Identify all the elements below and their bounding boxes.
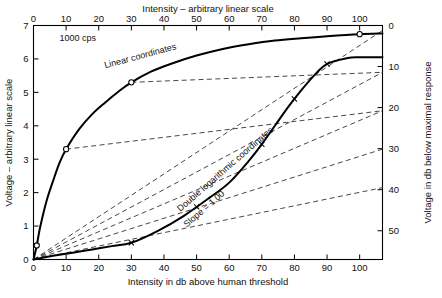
series-line-loglog <box>34 57 383 259</box>
top-axis-tick-label: 60 <box>224 13 235 24</box>
top-axis-tick-label: 30 <box>126 13 137 24</box>
right-axis-tick-label: 0 <box>389 20 394 31</box>
data-point-marker-circle <box>64 147 69 152</box>
top-axis-tick-label: 90 <box>322 13 333 24</box>
connector-1 <box>34 31 383 260</box>
bottom-axis-tick-label: 0 <box>31 262 36 273</box>
left-axis-tick-label: 5 <box>23 87 28 98</box>
top-axis-tick-label: 70 <box>257 13 268 24</box>
right-axis-tick-label: 50 <box>389 225 400 236</box>
left-axis-tick-label: 4 <box>23 120 28 131</box>
connector-upper-2 <box>131 72 382 82</box>
top-axis-title: Intensity – arbitrary linear scale <box>142 3 273 14</box>
figure-chart: 0102030405060708090100Intensity – arbitr… <box>0 0 442 298</box>
left-axis-tick-label: 2 <box>23 187 28 198</box>
left-axis-tick-label: 0 <box>23 254 28 265</box>
top-axis-tick-label: 80 <box>289 13 300 24</box>
top-axis-tick-label: 0 <box>31 13 36 24</box>
bottom-axis-tick-label: 20 <box>93 262 104 273</box>
bottom-axis-title: Intensity in db above human threshold <box>128 276 289 287</box>
data-point-marker-circle <box>129 80 134 85</box>
right-axis-tick-label: 30 <box>389 143 400 154</box>
bottom-axis-tick-label: 60 <box>224 262 235 273</box>
left-axis-tick-label: 1 <box>23 220 28 231</box>
right-axis-tick-label: 10 <box>389 61 400 72</box>
bottom-axis-tick-label: 30 <box>126 262 137 273</box>
chart-svg: 0102030405060708090100Intensity – arbitr… <box>0 0 442 298</box>
bottom-axis-tick-label: 70 <box>257 262 268 273</box>
bottom-axis-tick-label: 50 <box>191 262 202 273</box>
annotation-cps-note: 1000 cps <box>60 33 97 43</box>
top-axis-tick-label: 50 <box>191 13 202 24</box>
annotation-loglog-curve-label: Double logarithmic coordinates <box>175 125 275 214</box>
data-point-marker-circle <box>357 32 362 37</box>
left-axis-tick-label: 3 <box>23 154 28 165</box>
left-axis-tick-label: 6 <box>23 53 28 64</box>
bottom-axis-tick-label: 90 <box>322 262 333 273</box>
left-axis-title: Voltage – arbitrary linear scale <box>3 79 14 207</box>
bottom-axis-tick-label: 100 <box>352 262 368 273</box>
bottom-axis-tick-label: 40 <box>159 262 170 273</box>
plot-frame <box>34 26 383 260</box>
bottom-axis-tick-label: 80 <box>289 262 300 273</box>
top-axis-tick-label: 20 <box>93 13 104 24</box>
data-point-marker-circle <box>34 243 39 248</box>
top-axis-tick-label: 10 <box>61 13 72 24</box>
top-axis-tick-label: 100 <box>352 13 368 24</box>
left-axis-tick-label: 7 <box>23 20 28 31</box>
right-axis-title: Voltage in db below maximal response <box>422 61 433 223</box>
bottom-axis-tick-label: 10 <box>61 262 72 273</box>
top-axis-tick-label: 40 <box>159 13 170 24</box>
right-axis-tick-label: 20 <box>389 102 400 113</box>
right-axis-tick-label: 40 <box>389 184 400 195</box>
connector-upper-1 <box>66 111 382 149</box>
